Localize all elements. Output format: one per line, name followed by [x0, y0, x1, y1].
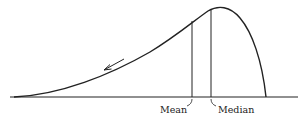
skew-direction-arrow-icon	[104, 59, 124, 70]
distribution-curve	[14, 7, 266, 97]
mean-pointer	[187, 99, 192, 106]
median-label: Median	[218, 104, 254, 115]
median-pointer	[211, 99, 216, 106]
mean-label: Mean	[160, 104, 187, 115]
diagram-canvas	[0, 0, 304, 120]
skewed-distribution-diagram: Mean Median	[0, 0, 304, 120]
